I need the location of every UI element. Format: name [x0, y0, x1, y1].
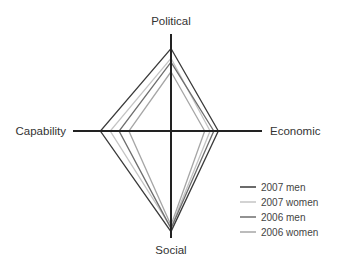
- axis-label-political: Political: [151, 15, 191, 27]
- legend-label: 2007 men: [261, 182, 305, 193]
- legend-label: 2006 men: [261, 212, 305, 223]
- axis-label-economic: Economic: [270, 125, 321, 137]
- legend: 2007 men2007 women2006 men2006 women: [240, 182, 318, 238]
- axis-label-social: Social: [155, 244, 186, 256]
- legend-label: 2007 women: [261, 197, 318, 208]
- axis-layer: [73, 34, 262, 238]
- series-layer: [100, 49, 218, 232]
- series-2007-men: [100, 49, 218, 232]
- radar-chart: Political Economic Social Capability 200…: [0, 0, 339, 266]
- axis-label-capability: Capability: [16, 125, 67, 137]
- legend-label: 2006 women: [261, 227, 318, 238]
